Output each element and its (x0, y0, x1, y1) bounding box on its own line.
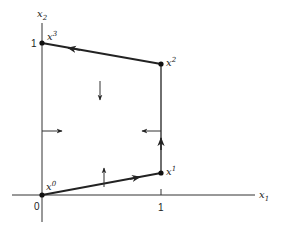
vertex-x1 (158, 170, 163, 175)
x2-axis-label: x2 (37, 8, 48, 22)
x1-tick-label: 1 (158, 202, 164, 213)
origin-label: 0 (34, 201, 40, 212)
label-x1: x1 (166, 165, 176, 177)
vertex-x0 (39, 192, 44, 197)
vertex-x2 (158, 61, 163, 66)
solution-path (42, 43, 161, 195)
x2-tick-label: 1 (31, 38, 37, 49)
label-x0: x0 (46, 180, 57, 192)
label-x2: x2 (166, 56, 177, 68)
diagram-canvas: x2 x1 0 1 1 x0 x1 x2 x3 (0, 0, 281, 225)
label-x3: x3 (47, 30, 58, 42)
vertex-x3 (39, 40, 44, 45)
x1-axis-label: x1 (259, 189, 269, 203)
normal-arrows (42, 81, 161, 187)
path-arrow-x0-x1 (130, 177, 140, 179)
path-arrow-x2-x3 (68, 48, 80, 50)
